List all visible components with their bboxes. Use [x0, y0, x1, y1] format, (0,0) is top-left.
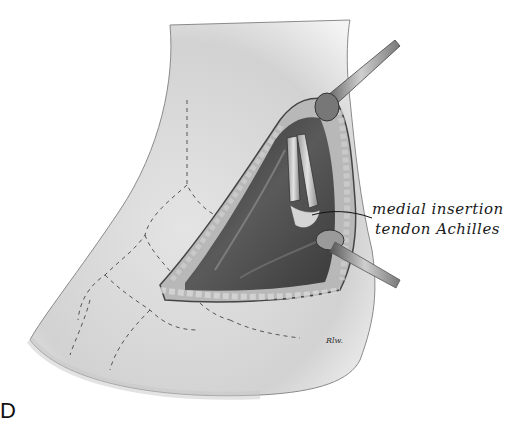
- panel-letter: D: [0, 398, 16, 424]
- annotation-line-1: medial insertion: [372, 200, 504, 218]
- artist-signature: Rlw.: [326, 336, 343, 345]
- annotation-line-2: tendon Achilles: [375, 220, 500, 238]
